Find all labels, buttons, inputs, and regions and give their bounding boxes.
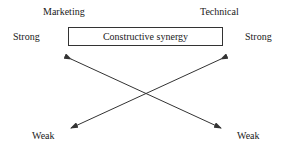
strong-left-label: Strong — [13, 31, 40, 43]
marketing-label: Marketing — [43, 6, 85, 18]
weak-left-label: Weak — [32, 130, 55, 142]
strong-right-label: Strong — [245, 31, 272, 43]
constructive-synergy-box: Constructive synergy — [68, 27, 223, 46]
weak-right-label: Weak — [237, 130, 260, 142]
technical-label: Technical — [200, 6, 239, 18]
